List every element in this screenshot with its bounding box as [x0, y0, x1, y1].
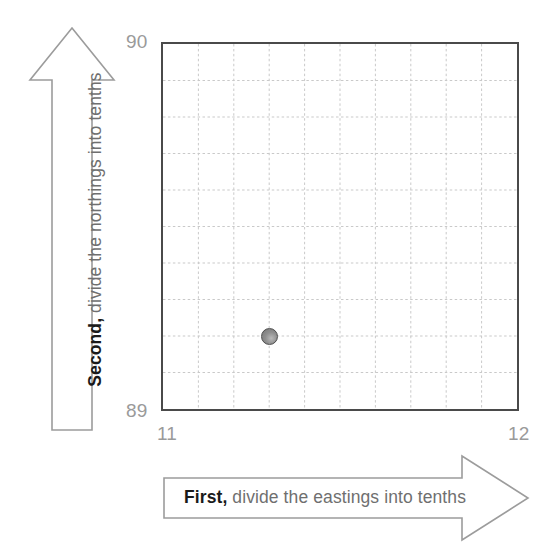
grid-reference-point [261, 328, 278, 345]
grid-plot-area [161, 42, 519, 411]
y-axis-bottom-label: 89 [126, 400, 148, 422]
horizontal-caption-lead: First, [184, 487, 227, 507]
vertical-arrow-caption: Second, divide the northings into tenths [85, 35, 106, 425]
horizontal-arrow-caption: First, divide the eastings into tenths [175, 487, 475, 508]
grid-reference-diagram: Second, divide the northings into tenths [0, 0, 558, 559]
vertical-caption-rest: divide the northings into tenths [85, 72, 105, 318]
y-axis-top-label: 90 [126, 31, 148, 53]
grid-lines [163, 44, 517, 409]
horizontal-caption-rest: divide the eastings into tenths [227, 487, 466, 507]
x-axis-left-label: 11 [157, 423, 177, 445]
x-axis-right-label: 12 [508, 423, 530, 445]
vertical-caption-lead: Second, [85, 318, 105, 387]
